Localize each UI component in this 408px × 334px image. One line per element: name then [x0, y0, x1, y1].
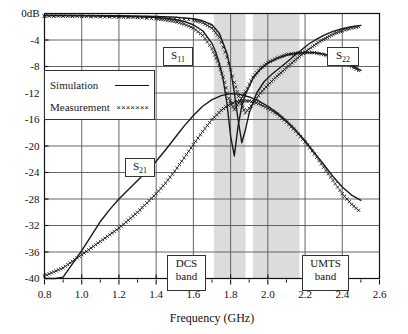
y-tick-label: -4: [30, 34, 40, 46]
y-tick-label: -12: [25, 87, 40, 99]
annotation-s11: S11: [163, 47, 193, 66]
y-tick-label: -24: [25, 166, 40, 178]
x-tick-label: 1.8: [224, 288, 238, 300]
legend-swatch-x-markers: ×××××××: [116, 103, 149, 112]
legend-label-simulation: Simulation: [50, 79, 98, 91]
annotation-dcs-band: DCS band: [167, 255, 206, 291]
annotation-s21: S21: [125, 158, 155, 177]
legend-label-measurement: Measurement: [50, 101, 110, 113]
annotation-s11-subscript: 11: [177, 55, 185, 64]
x-tick-label: 2.0: [261, 288, 275, 300]
annotation-s21-subscript: 21: [139, 166, 147, 175]
y-tick-label: 0dB: [21, 7, 39, 19]
x-tick-label: 2.6: [373, 288, 387, 300]
x-tick-label: 1.0: [75, 288, 89, 300]
x-tick-label: 0.8: [38, 288, 52, 300]
annotation-umts-line2: band: [306, 270, 345, 283]
y-tick-label: -36: [25, 246, 40, 258]
annotation-s22: S22: [327, 47, 359, 66]
annotation-dcs-line2: band: [171, 270, 202, 283]
y-tick-label: -20: [25, 140, 40, 152]
series-line: [45, 94, 361, 279]
y-tick-label: -16: [25, 113, 40, 125]
data-series-group: [43, 15, 361, 279]
annotation-dcs-line1: DCS: [171, 257, 202, 270]
annotation-s22-subscript: 22: [342, 55, 350, 64]
chart-legend: Simulation Measurement ×××××××: [44, 70, 155, 120]
y-tick-label: -40: [25, 272, 40, 284]
x-tick-label: 1.2: [112, 288, 126, 300]
annotation-umts-band: UMTS band: [302, 255, 349, 291]
x-axis-title: Frequency (GHz): [170, 311, 254, 325]
annotation-umts-line1: UMTS: [306, 257, 345, 270]
x-tick-label: 1.4: [149, 288, 163, 300]
series-markers: [43, 99, 360, 277]
legend-swatch-solid-line: [115, 85, 149, 86]
legend-row-measurement: Measurement ×××××××: [50, 96, 149, 118]
y-tick-label: -32: [25, 219, 40, 231]
y-axis-tick-labels: 0dB-4-8-12-16-20-24-28-32-36-40: [21, 7, 40, 284]
y-tick-label: -8: [30, 60, 40, 72]
y-tick-label: -28: [25, 193, 40, 205]
legend-row-simulation: Simulation: [50, 74, 149, 96]
chart-figure: 0dB-4-8-12-16-20-24-28-32-36-40 0.81.01.…: [0, 0, 408, 334]
